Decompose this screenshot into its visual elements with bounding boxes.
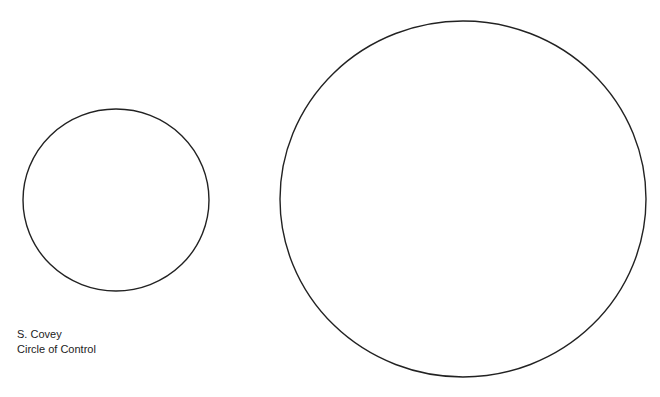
caption: S. Covey Circle of Control: [17, 327, 96, 357]
caption-author: S. Covey: [17, 327, 96, 342]
caption-title: Circle of Control: [17, 342, 96, 357]
small-circle: [23, 109, 209, 291]
large-circle: [280, 21, 646, 377]
diagram-canvas: [0, 0, 660, 397]
